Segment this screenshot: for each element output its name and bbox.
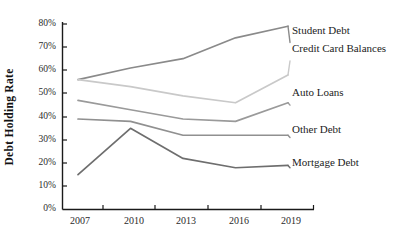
series-label-credit-card-balances: Credit Card Balances [292,42,386,54]
y-tick-label-60: 60% [39,64,57,74]
y-tick-label-40: 40% [39,111,57,121]
y-axis-title: Debt Holding Rate [3,68,16,165]
x-tick-label-2016: 2016 [229,215,249,226]
leader-line-student-debt [288,26,290,42]
y-tick-label-50: 50% [39,87,57,97]
series-line-credit-card-balances [78,75,288,103]
leader-line-auto-loans [288,103,290,105]
y-tick-label-20: 20% [39,157,57,167]
x-tick-label-2013: 2013 [176,215,196,226]
debt-holding-rate-chart: Debt Holding Rate 80% 70% 60% 50% 40% 30… [0,0,406,241]
series-line-other-debt [78,119,288,135]
series-label-mortgage-debt: Mortgage Debt [292,156,359,168]
x-tick-label-2007: 2007 [70,215,90,226]
series-line-student-debt [78,26,288,79]
y-tick-label-80: 80% [39,18,57,28]
x-tick-label-2010: 2010 [124,215,144,226]
leader-line-other-debt [288,135,290,137]
series-label-other-debt: Other Debt [292,123,341,135]
series-line-auto-loans [78,100,288,121]
y-tick-label-0: 0% [43,203,56,213]
chart-canvas: Debt Holding Rate 80% 70% 60% 50% 40% 30… [0,0,406,241]
x-tick-label-2019: 2019 [281,215,301,226]
leader-line-mortgage-debt [288,165,290,167]
leader-line-credit-card-balances [288,61,290,75]
y-tick-label-70: 70% [39,41,57,51]
series-label-student-debt: Student Debt [292,24,350,36]
y-tick-label-10: 10% [39,180,57,190]
y-tick-label-30: 30% [39,134,57,144]
series-label-auto-loans: Auto Loans [292,86,344,98]
